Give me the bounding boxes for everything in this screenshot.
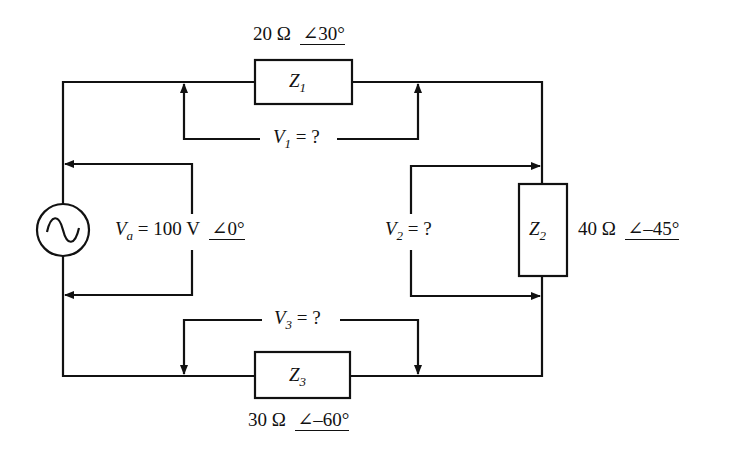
va-magnitude: 100 V: [153, 218, 200, 239]
va-equals: =: [138, 218, 149, 239]
va-angle-value: 0°: [227, 218, 244, 239]
z1-symbol: Z1: [289, 71, 306, 90]
v1-subscript: 1: [285, 136, 292, 151]
z1-angle: ∠30°: [300, 24, 345, 45]
z3-magnitude: 30 Ω: [248, 409, 286, 430]
z2-letter: Z: [529, 218, 540, 239]
z3-subscript: 3: [300, 374, 307, 389]
v1-bracket-left: [184, 84, 260, 139]
v2-subscript: 2: [397, 228, 404, 243]
va-letter: V: [115, 218, 127, 239]
v3-subscript: 3: [286, 317, 293, 332]
z2-angle: ∠–45°: [625, 219, 679, 240]
v3-label: V3 = ?: [274, 308, 321, 327]
va-bracket-top: [65, 164, 192, 214]
angle-icon: ∠: [627, 219, 643, 238]
z2-magnitude: 40 Ω: [578, 218, 616, 239]
z1-value-label: 20 Ω ∠30°: [253, 24, 345, 45]
z3-symbol: Z3: [289, 365, 306, 384]
va-bracket-bottom: [65, 250, 192, 295]
circuit-diagram: 20 Ω ∠30° Z1 V1 = ? Va = 100 V ∠0° V2 = …: [0, 0, 737, 455]
angle-icon: ∠: [211, 219, 227, 238]
va-angle: ∠0°: [209, 219, 244, 240]
z3-value-label: 30 Ω ∠–60°: [248, 410, 349, 431]
top-wire-right: [352, 82, 542, 184]
z2-value-label: 40 Ω ∠–45°: [578, 219, 679, 240]
v1-label: V1 = ?: [273, 127, 320, 146]
z3-letter: Z: [289, 364, 300, 385]
z1-angle-value: 30°: [318, 23, 345, 44]
bottom-wire-left: [63, 256, 255, 376]
v2-letter: V: [385, 218, 397, 239]
v3-bracket-right: [340, 320, 418, 374]
v3-value: = ?: [292, 307, 321, 328]
v2-label: V2 = ?: [385, 219, 432, 238]
va-subscript: a: [127, 228, 134, 243]
angle-icon: ∠: [302, 24, 318, 43]
z1-magnitude: 20 Ω: [253, 23, 291, 44]
right-wire-bottom: [350, 276, 542, 376]
angle-icon: ∠: [297, 410, 313, 429]
z3-angle: ∠–60°: [295, 410, 349, 431]
v3-bracket-left: [184, 320, 262, 374]
v3-letter: V: [274, 307, 286, 328]
z1-subscript: 1: [300, 80, 307, 95]
v1-letter: V: [273, 126, 285, 147]
z2-angle-value: –45°: [643, 218, 679, 239]
z1-letter: Z: [289, 70, 300, 91]
top-wire-left: [63, 82, 255, 204]
z2-symbol: Z2: [529, 219, 546, 238]
z3-angle-value: –60°: [313, 409, 349, 430]
v1-value: = ?: [291, 126, 320, 147]
v2-value: = ?: [403, 218, 432, 239]
z2-subscript: 2: [540, 228, 547, 243]
va-label: Va = 100 V ∠0°: [115, 219, 245, 240]
